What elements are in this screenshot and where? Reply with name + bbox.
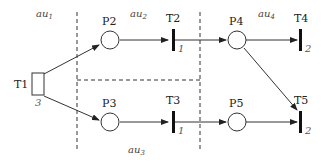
transition-T3: T3 1 <box>166 94 184 136</box>
region-label-au2: au2 <box>130 8 147 21</box>
region-label-au1: au1 <box>36 8 53 21</box>
place-P3: P3 <box>101 97 119 131</box>
svg-text:2: 2 <box>304 125 311 136</box>
transition-T2: T2 1 <box>166 12 184 54</box>
region-label-au4: au4 <box>258 8 275 21</box>
transition-T1: T1 3 <box>14 73 44 108</box>
svg-text:T3: T3 <box>166 94 180 107</box>
svg-text:2: 2 <box>304 43 311 54</box>
svg-text:P3: P3 <box>102 97 116 110</box>
svg-text:T4: T4 <box>294 12 308 25</box>
svg-text:T2: T2 <box>166 12 180 25</box>
svg-text:T1: T1 <box>14 78 28 91</box>
transition-T5: T5 2 <box>294 94 311 136</box>
svg-text:1: 1 <box>178 43 184 54</box>
arcs <box>44 40 297 122</box>
place-P2: P2 <box>101 15 119 49</box>
svg-text:P5: P5 <box>229 97 243 110</box>
svg-text:P2: P2 <box>102 15 116 28</box>
region-label-au3: au3 <box>128 144 145 157</box>
svg-text:1: 1 <box>178 125 184 136</box>
svg-text:P4: P4 <box>229 15 243 28</box>
place-P5: P5 <box>228 97 246 131</box>
transition-T4: T4 2 <box>294 12 311 54</box>
svg-text:T5: T5 <box>294 94 308 107</box>
petri-net-diagram: au1 au2 au3 au4 T1 3 P2 P3 P4 P5 T2 <box>0 0 325 162</box>
place-P4: P4 <box>228 15 246 49</box>
svg-text:3: 3 <box>35 97 41 108</box>
